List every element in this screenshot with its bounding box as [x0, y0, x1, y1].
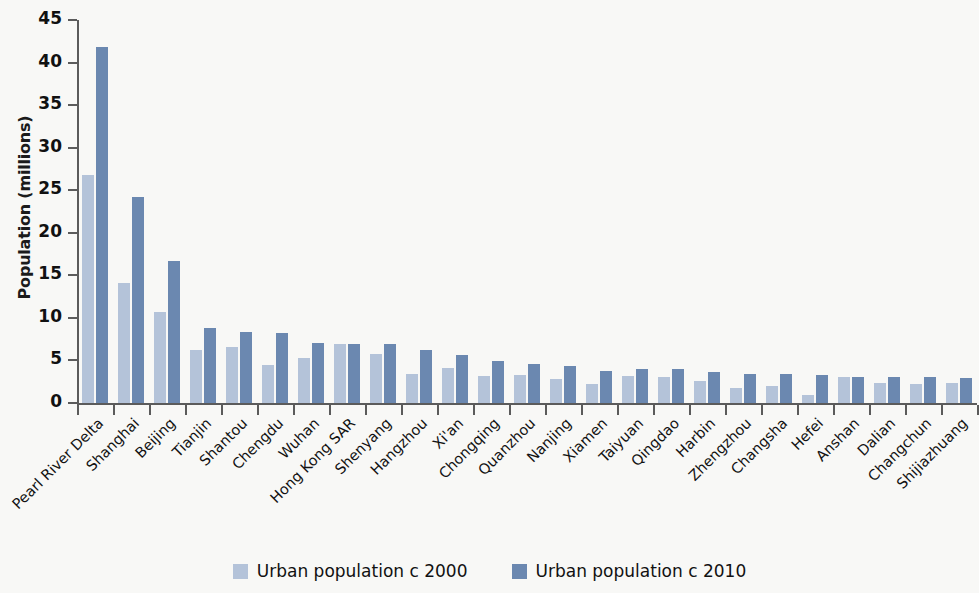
bar-2010 [168, 261, 181, 403]
bar-2010 [708, 372, 721, 403]
y-tick-label: 15 [38, 263, 62, 283]
bar-2000 [910, 384, 923, 403]
y-tick-label: 10 [38, 306, 62, 326]
y-tick: 15 [68, 274, 77, 276]
bar-2010 [600, 371, 613, 403]
bar-2000 [226, 347, 239, 403]
x-tick [689, 405, 691, 415]
y-tick-label: 0 [50, 391, 62, 411]
x-tick [113, 405, 115, 415]
bar-2000 [478, 376, 491, 403]
bar-2010 [636, 369, 649, 403]
bar-2010 [276, 333, 289, 403]
bar-2010 [888, 377, 901, 403]
x-tick [185, 405, 187, 415]
bar-2000 [550, 379, 563, 403]
bar-2000 [334, 344, 347, 403]
y-tick: 5 [68, 359, 77, 361]
bar-2000 [622, 376, 635, 403]
bar-2010 [672, 369, 685, 403]
bar-2010 [924, 377, 937, 403]
x-tick [833, 405, 835, 415]
bar-2010 [528, 364, 541, 403]
x-tick [473, 405, 475, 415]
y-tick: 10 [68, 317, 77, 319]
y-tick-label: 30 [38, 136, 62, 156]
bar-2000 [802, 395, 815, 404]
x-tick [797, 405, 799, 415]
x-tick [545, 405, 547, 415]
legend-item[interactable]: Urban population c 2000 [233, 561, 468, 581]
bar-2000 [694, 381, 707, 403]
y-tick: 45 [68, 19, 77, 21]
x-tick [905, 405, 907, 415]
bar-2010 [744, 374, 757, 403]
bar-2000 [370, 354, 383, 403]
x-tick [509, 405, 511, 415]
y-tick-label: 35 [38, 93, 62, 113]
bar-2010 [240, 332, 253, 403]
x-tick [365, 405, 367, 415]
y-tick-label: 45 [38, 8, 62, 28]
bar-2000 [118, 283, 131, 403]
legend-swatch-icon [512, 564, 527, 579]
x-axis-line [77, 403, 977, 405]
bar-2000 [298, 358, 311, 403]
bar-2000 [154, 312, 167, 403]
y-tick: 20 [68, 232, 77, 234]
y-axis-line [77, 20, 79, 403]
x-tick [869, 405, 871, 415]
bar-2010 [132, 197, 145, 403]
chart-legend: Urban population c 2000Urban population … [0, 561, 979, 581]
bar-2000 [406, 374, 419, 403]
x-tick [257, 405, 259, 415]
bar-2010 [348, 344, 361, 403]
bar-2010 [780, 374, 793, 403]
x-tick [725, 405, 727, 415]
plot-area: 051015202530354045 [77, 20, 977, 403]
bar-2000 [82, 175, 95, 403]
bar-2010 [384, 344, 397, 403]
y-tick: 30 [68, 147, 77, 149]
bar-2000 [730, 388, 743, 403]
x-tick [329, 405, 331, 415]
x-tick [617, 405, 619, 415]
legend-label: Urban population c 2000 [257, 561, 468, 581]
y-tick-label: 25 [38, 178, 62, 198]
bar-2010 [816, 375, 829, 403]
bar-2010 [492, 361, 505, 403]
bar-2000 [514, 375, 527, 403]
y-tick-label: 20 [38, 221, 62, 241]
bar-2010 [564, 366, 577, 403]
bar-2000 [262, 365, 275, 403]
legend-label: Urban population c 2010 [536, 561, 747, 581]
bar-2010 [312, 343, 325, 403]
y-tick-label: 5 [50, 348, 62, 368]
bar-2010 [960, 378, 973, 403]
y-tick: 35 [68, 104, 77, 106]
x-tick [653, 405, 655, 415]
legend-swatch-icon [233, 564, 248, 579]
x-tick [941, 405, 943, 415]
y-axis-title: Population (millions) [15, 98, 34, 318]
bar-2010 [456, 355, 469, 404]
x-tick [77, 405, 79, 415]
bar-2010 [204, 328, 217, 403]
y-tick: 0 [68, 402, 77, 404]
x-tick [437, 405, 439, 415]
bar-2000 [874, 383, 887, 403]
legend-item[interactable]: Urban population c 2010 [512, 561, 747, 581]
x-tick [221, 405, 223, 415]
y-tick: 40 [68, 62, 77, 64]
bar-2000 [766, 386, 779, 403]
bar-2010 [420, 350, 433, 403]
bar-2000 [586, 384, 599, 403]
bar-2000 [442, 368, 455, 403]
x-tick [293, 405, 295, 415]
bar-2000 [838, 377, 851, 403]
bar-2000 [190, 350, 203, 403]
bar-2010 [852, 377, 865, 403]
bar-2000 [658, 377, 671, 403]
bar-chart: Population (millions) 051015202530354045… [0, 0, 979, 593]
x-tick [401, 405, 403, 415]
